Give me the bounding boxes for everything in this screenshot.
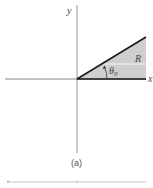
y-axis-label: y — [66, 5, 72, 16]
figure-caption: (a) — [71, 158, 82, 168]
region-label: R — [134, 53, 141, 64]
wedge-region-diagram: y x R θ0 (a) — [0, 0, 153, 188]
x-axis-label: x — [147, 73, 153, 84]
